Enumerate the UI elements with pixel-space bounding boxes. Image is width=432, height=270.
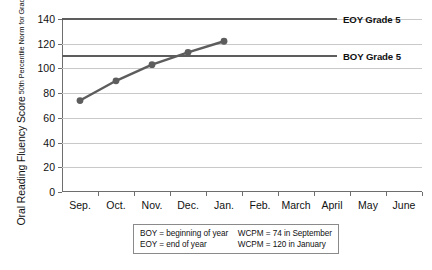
x-tick-label: March [281,199,310,211]
x-tick-label: Dec. [177,199,199,211]
wcpm-september: WCPM = 74 in September [238,229,332,238]
y-axis-title-main: Oral Reading Fluency Score [15,96,27,225]
x-tick-mark [314,192,315,196]
y-tick-mark [58,192,62,193]
x-tick-mark [134,192,135,196]
y-axis-title-sub: 50th Percentile Norm for Grade 5 [17,0,26,94]
x-tick-mark [98,192,99,196]
x-tick-label: Nov. [142,199,163,211]
x-tick-mark [170,192,171,196]
x-tick-label: Feb. [249,199,270,211]
x-tick-label: Jan. [214,199,234,211]
x-tick-label: April [321,199,342,211]
series-line [80,41,224,100]
x-tick-label: June [393,199,416,211]
oral-reading-fluency-chart: Oral Reading Fluency Score 50th Percenti… [0,0,432,270]
x-tick-mark [386,192,387,196]
benchmark-label-eoy: EOY Grade 5 [343,14,400,25]
data-point-marker [221,38,228,45]
x-tick-mark [422,192,423,196]
y-tick-label: 120 [37,38,55,50]
data-point-marker [77,97,84,104]
x-tick-mark [242,192,243,196]
data-point-marker [113,77,120,84]
definitions-legend-box: BOY = beginning of year EOY = end of yea… [133,224,339,254]
y-axis-title: Oral Reading Fluency Score 50th Percenti… [6,14,36,200]
boy-definition: BOY = beginning of year [140,229,238,238]
y-tick-label: 0 [49,186,55,198]
wcpm-january: WCPM = 120 in January [238,240,332,249]
x-tick-mark [278,192,279,196]
x-tick-mark [350,192,351,196]
y-tick-label: 140 [37,13,55,25]
y-tick-label: 20 [43,161,55,173]
x-tick-mark [206,192,207,196]
data-point-marker [185,49,192,56]
y-tick-label: 40 [43,137,55,149]
definitions-column-right: WCPM = 74 in September WCPM = 120 in Jan… [238,229,332,249]
x-tick-label: Sep. [69,199,91,211]
y-tick-label: 80 [43,87,55,99]
y-tick-label: 100 [37,62,55,74]
benchmark-label-boy: BOY Grade 5 [343,51,401,62]
data-series-layer [62,19,422,192]
plot-area: 020406080100120140 Sep.Oct.Nov.Dec.Jan.F… [62,19,422,192]
x-tick-label: May [358,199,378,211]
eoy-definition: EOY = end of year [140,240,238,249]
y-tick-label: 60 [43,112,55,124]
data-point-marker [149,61,156,68]
x-tick-label: Oct. [106,199,125,211]
definitions-column-left: BOY = beginning of year EOY = end of yea… [140,229,238,249]
